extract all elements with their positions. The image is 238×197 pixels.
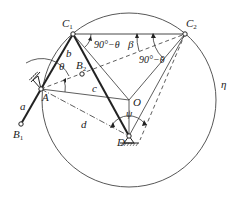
label-link-d: d bbox=[81, 118, 87, 130]
label-link-a: a bbox=[20, 100, 26, 112]
label-link-b: b bbox=[66, 47, 72, 59]
label-d: D bbox=[116, 136, 125, 148]
link-b bbox=[41, 34, 73, 89]
joint-c2 bbox=[183, 32, 187, 36]
joint-d bbox=[127, 134, 131, 138]
angle-c1-arrow bbox=[88, 36, 92, 41]
label-theta: θ bbox=[59, 60, 65, 72]
label-b1: B1 bbox=[13, 128, 24, 142]
label-eta: η bbox=[221, 78, 226, 90]
label-psi: ψ bbox=[126, 108, 133, 119]
label-b2: B2 bbox=[76, 59, 87, 73]
diagram-canvas: C1 C2 B2 B1 A O D a b c d θ 90°−θ β 90°−… bbox=[0, 0, 238, 197]
label-o: O bbox=[133, 96, 141, 108]
label-a: A bbox=[41, 91, 49, 103]
line-c2-d bbox=[129, 34, 185, 136]
linkage-diagram: C1 C2 B2 B1 A O D a b c d θ 90°−θ β 90°−… bbox=[0, 0, 238, 197]
line-a-o bbox=[41, 89, 129, 100]
joint-c1 bbox=[71, 32, 75, 36]
ground-a-icon bbox=[29, 72, 41, 89]
dashed-c2-extension bbox=[140, 34, 185, 140]
label-c2: C2 bbox=[186, 17, 197, 31]
label-angle-c1: 90°−θ bbox=[94, 39, 120, 50]
label-c1: C1 bbox=[62, 17, 73, 31]
joint-b1 bbox=[19, 122, 23, 126]
label-link-c: c bbox=[92, 82, 97, 94]
psi-arrow-left bbox=[110, 122, 115, 128]
label-beta: β bbox=[127, 38, 134, 50]
label-angle-c2: 90°−θ bbox=[139, 54, 165, 65]
